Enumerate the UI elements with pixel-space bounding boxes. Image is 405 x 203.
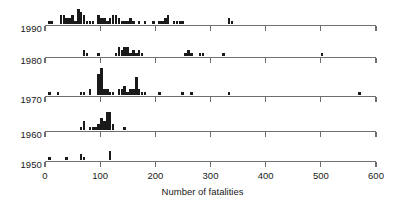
axis-tick: [210, 162, 211, 167]
data-dot: [190, 92, 193, 95]
axis-tick: [155, 162, 156, 167]
axis-tick: [375, 58, 376, 63]
data-dot: [57, 92, 60, 95]
data-dot: [83, 15, 86, 18]
data-dot: [109, 154, 112, 157]
row-label-1960: 1960: [0, 121, 42, 133]
row-label-1990: 1990: [0, 15, 42, 27]
data-dot: [144, 21, 147, 24]
data-dot: [89, 89, 92, 92]
data-dot: [112, 92, 115, 95]
row-label-1950: 1950: [0, 151, 42, 163]
data-dot: [228, 92, 231, 95]
data-dot: [109, 151, 112, 154]
data-dot: [97, 53, 100, 56]
data-dot: [167, 21, 170, 24]
axis-tick: [375, 162, 376, 167]
data-dot: [123, 86, 126, 89]
row-label-text: 1950: [20, 160, 42, 170]
axis-tick: [210, 97, 211, 102]
data-dot: [51, 21, 54, 24]
row-label-1970: 1970: [0, 86, 42, 98]
axis-tick: [100, 162, 101, 167]
axis-tick: [44, 97, 45, 102]
axis-tick: [265, 162, 266, 167]
data-dot: [83, 121, 86, 124]
decade-row-1980: 1980: [0, 29, 405, 61]
decade-row-1970: 1970: [0, 68, 405, 100]
x-tick-label-200: 200: [147, 170, 163, 181]
x-tick-label-300: 300: [203, 170, 219, 181]
axis-tick: [265, 58, 266, 63]
data-dot: [83, 92, 86, 95]
axis-tick: [265, 97, 266, 102]
data-dot: [83, 127, 86, 130]
data-dot: [109, 112, 112, 115]
x-tick-label-0: 0: [42, 170, 47, 181]
data-dot: [181, 21, 184, 24]
axis-tick: [44, 58, 45, 63]
axis-tick: [44, 162, 45, 167]
data-dot: [83, 124, 86, 127]
data-dot: [71, 15, 74, 18]
axis-tick: [100, 97, 101, 102]
data-dot: [100, 77, 103, 80]
data-dot: [48, 157, 51, 160]
x-tick-label-100: 100: [92, 170, 108, 181]
axis-tick: [320, 162, 321, 167]
row-label-1980: 1980: [0, 47, 42, 59]
decade-row-1950: 1950: [0, 133, 405, 165]
x-tick-label-400: 400: [258, 170, 274, 181]
data-dot: [158, 92, 161, 95]
data-dot: [222, 53, 225, 56]
data-dot: [358, 92, 361, 95]
data-dot: [231, 21, 234, 24]
axis-tick: [210, 58, 211, 63]
decade-row-1990: 1990: [0, 0, 405, 29]
data-dot: [86, 53, 89, 56]
data-dot: [112, 127, 115, 130]
axis-tick: [375, 97, 376, 102]
data-dot: [141, 53, 144, 56]
x-axis-tick-labels: 0100200300400500600: [0, 170, 405, 182]
data-dot: [181, 92, 184, 95]
data-dot: [167, 18, 170, 21]
data-dot: [202, 53, 205, 56]
row-label-text: 1980: [20, 56, 42, 66]
axis-tick: [155, 97, 156, 102]
data-dot: [109, 115, 112, 118]
data-dot: [152, 21, 155, 24]
data-dot: [321, 53, 324, 56]
data-dot: [48, 92, 51, 95]
data-dot: [109, 118, 112, 121]
x-tick-label-600: 600: [368, 170, 384, 181]
data-dot: [167, 15, 170, 18]
x-tick-label-500: 500: [313, 170, 329, 181]
data-dot: [138, 21, 141, 24]
axis-tick: [320, 97, 321, 102]
data-dot: [100, 71, 103, 74]
data-dot: [135, 77, 138, 80]
data-dot: [92, 21, 95, 24]
axis-tick: [155, 58, 156, 63]
data-dot: [100, 68, 103, 71]
dot-plot-chart: 19901980197019601950 0100200300400500600…: [0, 0, 405, 203]
data-dot: [100, 74, 103, 77]
data-dot: [190, 53, 193, 56]
data-dot: [135, 80, 138, 83]
data-dot: [112, 124, 115, 127]
data-dot: [132, 21, 135, 24]
x-axis-title: Number of fatalities: [0, 186, 405, 197]
data-dot: [123, 127, 126, 130]
data-dot: [109, 157, 112, 160]
data-dot: [126, 47, 129, 50]
axis-tick: [320, 58, 321, 63]
data-dot: [89, 92, 92, 95]
axis-tick: [100, 58, 101, 63]
decade-row-1960: 1960: [0, 103, 405, 135]
data-dot: [100, 83, 103, 86]
data-dot: [83, 157, 86, 160]
data-dot: [144, 92, 147, 95]
data-dot: [65, 157, 68, 160]
data-dot: [135, 83, 138, 86]
